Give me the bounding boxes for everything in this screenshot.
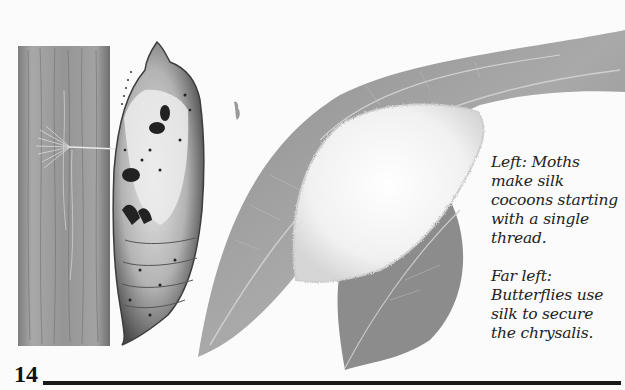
tree-bark: [18, 46, 110, 346]
caption-moths: Left: Moths make silk cocoons starting w…: [491, 153, 625, 248]
caption-butterflies: Far left: Butterflies use silk to secure…: [491, 267, 625, 343]
page-number: 14: [14, 362, 38, 386]
small-insect: [234, 101, 240, 120]
caption: Left: Moths make silk cocoons starting w…: [491, 153, 625, 343]
footer-rule: [43, 381, 621, 385]
butterfly-chrysalis: [113, 42, 203, 345]
